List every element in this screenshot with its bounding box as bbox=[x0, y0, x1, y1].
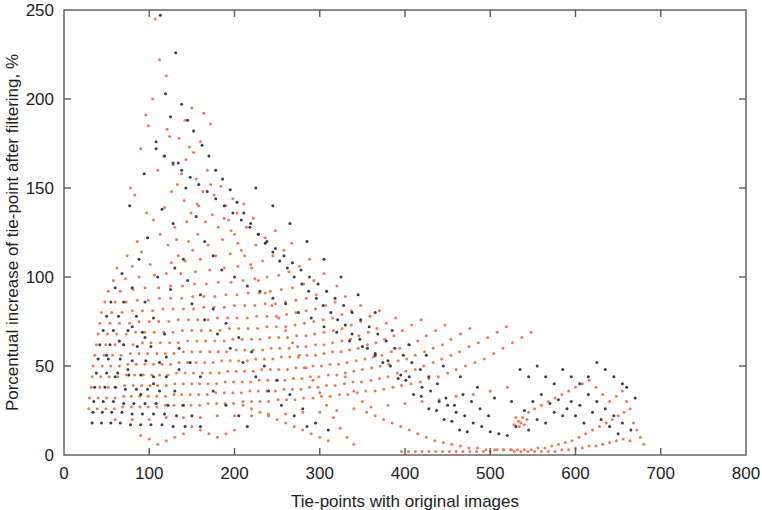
data-point bbox=[282, 249, 285, 252]
data-point bbox=[292, 377, 295, 380]
data-point bbox=[295, 334, 298, 337]
data-point bbox=[570, 375, 573, 378]
data-point bbox=[237, 336, 240, 339]
data-point bbox=[141, 413, 144, 416]
data-point bbox=[105, 372, 108, 375]
data-point bbox=[470, 400, 473, 403]
data-point bbox=[118, 340, 121, 343]
data-point bbox=[98, 343, 101, 346]
data-point bbox=[195, 203, 198, 206]
data-point bbox=[114, 386, 117, 389]
data-point bbox=[489, 430, 492, 433]
data-point bbox=[286, 267, 289, 270]
data-point bbox=[288, 356, 291, 359]
data-point bbox=[126, 329, 129, 332]
data-point bbox=[229, 188, 232, 191]
data-point bbox=[109, 300, 112, 303]
data-point bbox=[215, 382, 218, 385]
data-point bbox=[133, 194, 136, 197]
data-point bbox=[147, 395, 150, 398]
data-point bbox=[412, 393, 415, 396]
data-point bbox=[178, 347, 181, 350]
data-point bbox=[254, 187, 257, 190]
data-point bbox=[255, 315, 258, 318]
data-point bbox=[186, 279, 189, 282]
data-point bbox=[139, 373, 142, 376]
data-point bbox=[158, 389, 161, 392]
data-point bbox=[236, 201, 239, 204]
x-tick-label: 200 bbox=[220, 464, 248, 483]
axis-labels-layer: 0100200300400500600700800050100150200250… bbox=[3, 1, 760, 510]
data-point bbox=[175, 372, 178, 375]
data-point bbox=[414, 354, 417, 357]
data-point bbox=[441, 343, 444, 346]
data-point bbox=[438, 400, 441, 403]
data-point bbox=[214, 197, 217, 200]
data-point bbox=[480, 425, 483, 428]
data-point bbox=[591, 411, 594, 414]
data-point bbox=[250, 400, 253, 403]
data-point bbox=[444, 324, 447, 327]
data-point bbox=[217, 350, 220, 353]
data-point bbox=[132, 343, 135, 346]
data-point bbox=[351, 332, 354, 335]
data-point bbox=[365, 411, 368, 414]
data-point bbox=[514, 425, 517, 428]
data-point bbox=[561, 414, 564, 417]
data-point bbox=[233, 304, 236, 307]
data-point bbox=[247, 292, 250, 295]
data-point bbox=[167, 404, 170, 407]
data-point bbox=[170, 261, 173, 264]
data-point bbox=[141, 341, 144, 344]
data-point bbox=[553, 411, 556, 414]
data-point bbox=[635, 429, 638, 432]
data-point bbox=[352, 443, 355, 446]
data-point bbox=[581, 446, 584, 449]
data-point bbox=[267, 389, 270, 392]
data-point bbox=[594, 445, 597, 448]
data-point bbox=[271, 297, 274, 300]
data-point bbox=[492, 352, 495, 355]
data-point bbox=[172, 404, 175, 407]
data-point bbox=[121, 405, 124, 408]
data-point bbox=[340, 313, 343, 316]
data-point bbox=[190, 302, 193, 305]
data-point bbox=[318, 391, 321, 394]
data-point bbox=[145, 211, 148, 214]
data-point bbox=[283, 379, 286, 382]
data-point bbox=[612, 375, 615, 378]
data-point bbox=[399, 373, 402, 376]
data-point bbox=[323, 272, 326, 275]
data-point bbox=[259, 400, 262, 403]
data-point bbox=[144, 114, 147, 117]
data-point bbox=[152, 316, 155, 319]
data-point bbox=[242, 211, 245, 214]
data-point bbox=[314, 308, 317, 311]
data-point bbox=[300, 377, 303, 380]
data-point bbox=[340, 350, 343, 353]
data-point bbox=[212, 308, 215, 311]
data-point bbox=[361, 368, 364, 371]
data-point bbox=[561, 368, 564, 371]
data-point bbox=[173, 267, 176, 270]
data-point bbox=[310, 432, 313, 435]
data-point bbox=[173, 436, 176, 439]
data-point bbox=[214, 254, 217, 257]
data-point bbox=[164, 92, 167, 95]
data-point bbox=[324, 304, 327, 307]
data-point bbox=[87, 407, 90, 410]
data-point bbox=[198, 382, 201, 385]
data-point bbox=[190, 414, 193, 417]
data-point bbox=[455, 450, 458, 453]
data-point bbox=[224, 381, 227, 384]
x-tick-label: 800 bbox=[732, 464, 760, 483]
data-point bbox=[594, 386, 597, 389]
data-point bbox=[143, 286, 146, 289]
data-point bbox=[181, 284, 184, 287]
data-point bbox=[254, 375, 257, 378]
data-point bbox=[206, 190, 209, 193]
data-point bbox=[136, 345, 139, 348]
data-point bbox=[199, 140, 202, 143]
data-point bbox=[113, 407, 116, 410]
data-point bbox=[352, 407, 355, 410]
